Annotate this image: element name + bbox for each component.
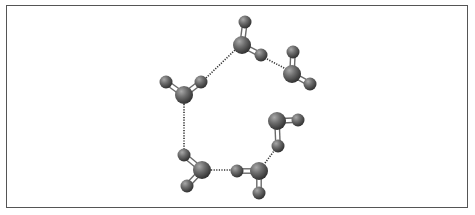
terminal-atom	[178, 149, 191, 162]
intermolecular-contacts	[184, 50, 286, 170]
atoms	[160, 16, 317, 200]
central-atom	[283, 65, 301, 83]
terminal-atom	[304, 78, 317, 91]
central-atom	[193, 161, 211, 179]
dotted-contact-line	[206, 50, 235, 78]
dotted-contact-line	[267, 59, 286, 69]
terminal-atom	[231, 165, 244, 178]
terminal-atom	[195, 76, 208, 89]
central-atom	[268, 112, 286, 130]
terminal-atom	[255, 49, 268, 62]
terminal-atom	[253, 187, 266, 200]
terminal-atom	[272, 140, 285, 153]
dotted-contact-line	[265, 151, 274, 163]
central-atom	[250, 162, 268, 180]
terminal-atom	[160, 76, 173, 89]
terminal-atom	[292, 114, 305, 127]
molecular-cluster-diagram	[0, 0, 475, 215]
central-atom	[233, 36, 251, 54]
terminal-atom	[239, 16, 252, 29]
terminal-atom	[181, 180, 194, 193]
central-atom	[175, 86, 193, 104]
terminal-atom	[287, 46, 300, 59]
